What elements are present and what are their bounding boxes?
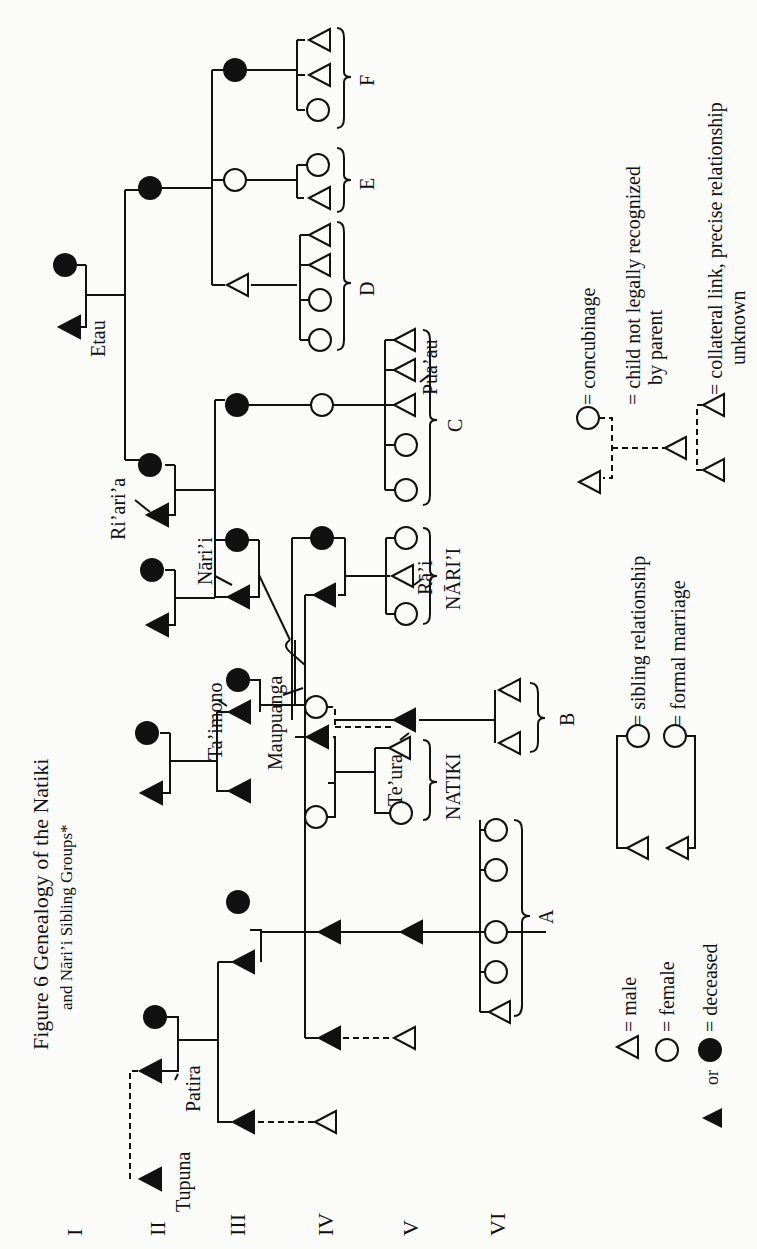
legend-female-label: = female — [656, 961, 678, 1032]
legend-not-recognized-label-2: by parent — [644, 310, 667, 385]
name-patira: Patira — [182, 1065, 204, 1112]
generation-I: I — [62, 1229, 87, 1236]
legend-collateral-label-1: = collateral link, precise relationship — [704, 102, 727, 395]
generation-VI: VI — [485, 1213, 510, 1236]
group-label-C: C — [444, 419, 466, 432]
riaria-etau-lineage: Ri’ari’a Pua’au C Etau — [53, 28, 466, 540]
legend-marriage: = formal marriage — [664, 580, 695, 859]
sibling-group-A: A — [480, 819, 557, 1023]
narii-lineage: Nāri’i Rā’i NĀRI’I — [140, 526, 464, 720]
taimono-maupuanga-lineage: Ta’imono Maupuanga Te’ura NATIKI B — [135, 640, 578, 828]
title-line-1: Figure 6 Genealogy of the Natiki — [28, 759, 53, 1050]
name-teura: Te’ura — [384, 754, 406, 806]
generation-IV: IV — [313, 1213, 338, 1236]
generation-V: V — [398, 1220, 423, 1236]
legend-not-recognized: = child not legally recognized by parent — [612, 166, 686, 459]
legend-deceased-label: = deceased — [699, 944, 721, 1032]
tupuna-patira-lineage: Tupuna Patira — [130, 720, 546, 1212]
legend: = male = female or = deceased = sibling … — [577, 102, 749, 1128]
legend-or-label: or — [702, 1070, 722, 1085]
legend-collateral-label-2: unknown — [727, 291, 749, 365]
legend-female: = female — [656, 961, 678, 1061]
legend-collateral: = collateral link, precise relationship … — [697, 102, 749, 481]
legend-male-label: = male — [618, 977, 640, 1032]
legend-not-recognized-label-1: = child not legally recognized — [622, 166, 645, 405]
legend-male: = male — [617, 977, 640, 1058]
group-label-E: E — [356, 178, 378, 190]
generation-II: II — [145, 1221, 170, 1236]
name-maupuanga: Maupuanga — [264, 675, 287, 770]
filled-triangle-icon — [702, 1108, 722, 1128]
legend-marriage-label: = formal marriage — [667, 580, 690, 726]
legend-concubinage: = concubinage — [577, 288, 612, 493]
title-line-2: and Nāri’i Sibling Groups* — [57, 824, 76, 1010]
genealogy-figure: Figure 6 Genealogy of the Natiki and Nār… — [0, 0, 757, 1249]
group-label-A: A — [535, 909, 557, 924]
genealogy-diagram: Figure 6 Genealogy of the Natiki and Nār… — [0, 0, 757, 1249]
generation-III: III — [225, 1214, 250, 1236]
name-etau: Etau — [87, 320, 109, 357]
figure-title: Figure 6 Genealogy of the Natiki and Nār… — [28, 759, 76, 1050]
group-label-B: B — [556, 713, 578, 726]
group-label-D: D — [356, 282, 378, 296]
name-tupuna: Tupuna — [172, 1151, 195, 1212]
generation-labels: I II III IV V VI — [62, 1213, 510, 1236]
legend-concubinage-label: = concubinage — [577, 288, 600, 405]
legend-sibling: = sibling relationship — [617, 556, 650, 859]
legend-deceased: or = deceased — [698, 944, 722, 1128]
legend-sibling-label: = sibling relationship — [627, 556, 650, 726]
group-label-narii: NĀRI’I — [442, 548, 464, 610]
group-label-F: F — [356, 75, 378, 86]
name-riaria: Ri’ari’a — [107, 478, 129, 540]
group-label-natiki: NATIKI — [442, 753, 464, 820]
name-taimono: Ta’imono — [204, 683, 226, 760]
name-narii: Nāri’i — [194, 537, 216, 585]
